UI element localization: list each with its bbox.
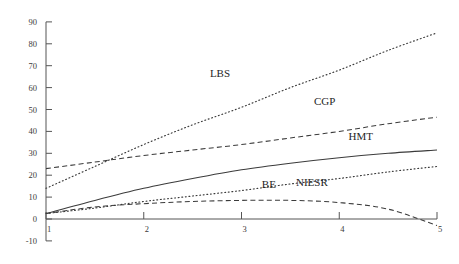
series-curves (46, 33, 437, 226)
line-chart-plot: -100102030405060708090 12345 LBSCGPHMTBE… (0, 0, 459, 264)
y-tick-label: 50 (29, 105, 38, 115)
chart-container: -100102030405060708090 12345 LBSCGPHMTBE… (0, 0, 459, 264)
series-line-cgp (46, 117, 437, 168)
y-tick-label: 10 (29, 192, 38, 202)
y-axis-ticks: -100102030405060708090 (26, 17, 52, 246)
y-tick-label: 40 (29, 126, 38, 136)
x-tick-label: 3 (243, 224, 247, 234)
x-tick-label: 2 (145, 224, 149, 234)
y-tick-label: -10 (26, 236, 37, 246)
y-tick-label: 0 (33, 214, 37, 224)
series-label-niesr: NIESR (296, 176, 328, 188)
y-tick-label: 70 (29, 61, 38, 71)
series-label-be: BE (262, 178, 276, 190)
x-tick-label: 4 (340, 224, 345, 234)
y-tick-label: 30 (29, 148, 38, 158)
series-line-hmt (46, 150, 437, 214)
series-labels: LBSCGPHMTBENIESR (210, 67, 373, 191)
axes (46, 22, 437, 241)
series-label-lbs: LBS (210, 67, 230, 79)
series-label-cgp: CGP (314, 95, 335, 107)
series-line-lbs (46, 33, 437, 188)
y-tick-label: 80 (29, 39, 38, 49)
y-tick-label: 60 (29, 83, 38, 93)
y-tick-label: 20 (29, 170, 38, 180)
y-tick-label: 90 (29, 17, 38, 27)
x-axis-ticks: 12345 (46, 212, 442, 234)
x-tick-label: 1 (47, 224, 51, 234)
x-tick-label: 5 (438, 224, 442, 234)
series-label-hmt: HMT (349, 130, 374, 142)
